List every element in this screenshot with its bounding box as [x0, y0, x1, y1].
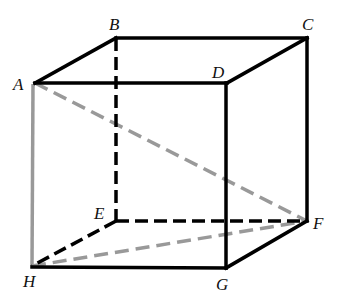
vertex-label-b: B — [109, 15, 120, 34]
edge-a-h — [32, 84, 33, 266]
vertex-label-d: D — [211, 63, 225, 82]
vertex-label-h: H — [22, 272, 37, 291]
vertex-label-c: C — [302, 15, 314, 34]
vertex-label-e: E — [93, 204, 105, 223]
vertex-label-g: G — [216, 275, 228, 294]
diagonal-a-f — [35, 83, 307, 221]
edge-a-b — [35, 38, 116, 83]
vertex-label-a: A — [12, 75, 24, 94]
edge-h-g — [32, 267, 226, 268]
vertex-label-f: F — [312, 214, 324, 233]
cube-diagram: A B C D E F G H — [0, 0, 339, 304]
edge-c-d — [227, 38, 307, 83]
